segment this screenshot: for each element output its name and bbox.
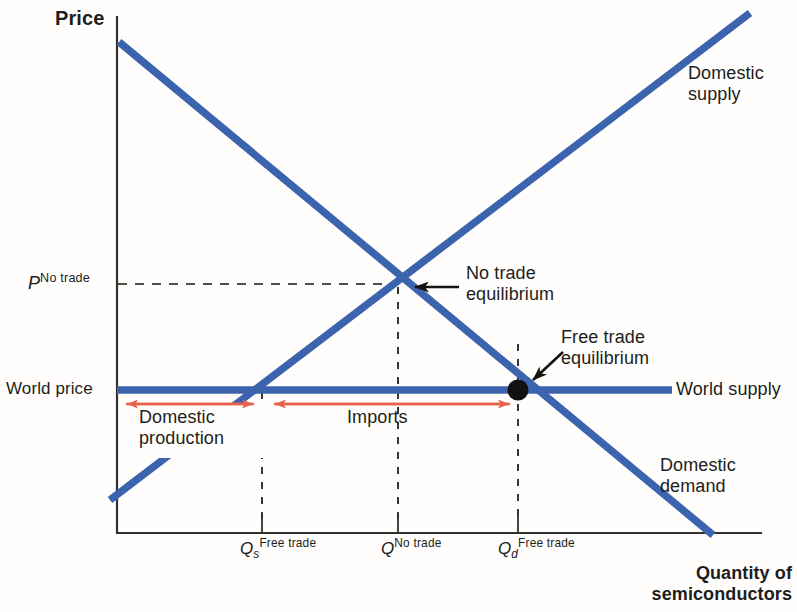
q-d-free-trade-tick-label: QdFree trade	[498, 537, 575, 562]
curves	[110, 13, 750, 535]
imports-label: Imports	[347, 407, 408, 428]
no-trade-equilibrium-label: No trade equilibrium	[466, 263, 606, 305]
domestic-supply-label: Domestic supply	[688, 63, 793, 105]
q-s-symbol: Q	[240, 539, 253, 558]
q-no-trade-superscript: No trade	[394, 536, 441, 550]
domestic-production-label: Domestic production	[139, 407, 264, 449]
x-axis-title: Quantity ofsemiconductors	[627, 563, 792, 605]
p-no-trade-superscript: No trade	[40, 271, 90, 285]
x-axis-ticks	[262, 514, 518, 533]
q-s-superscript: Free trade	[259, 536, 316, 550]
q-s-free-trade-tick-label: QsFree trade	[240, 537, 316, 562]
domestic-demand-label: Domestic demand	[660, 455, 780, 497]
q-d-superscript: Free trade	[518, 536, 575, 550]
diagram-canvas	[0, 0, 797, 612]
y-axis-title: Price	[55, 7, 104, 30]
world-supply-label: World supply	[676, 379, 781, 400]
free-trade-equilibrium-label: Free trade equilibrium	[561, 327, 706, 369]
world-price-axis-label: World price	[6, 379, 93, 399]
q-no-trade-symbol: Q	[381, 539, 394, 558]
p-no-trade-symbol: P	[28, 273, 40, 293]
economics-trade-diagram: Price Quantity ofsemiconductors PNo trad…	[0, 0, 797, 612]
q-d-symbol: Q	[498, 539, 511, 558]
p-no-trade-axis-label: PNo trade	[28, 271, 90, 294]
x-axis-title-line2: semiconductors	[652, 584, 792, 604]
x-axis-title-line1: Quantity of	[696, 563, 792, 583]
q-no-trade-tick-label: QNo trade	[381, 537, 442, 558]
domestic-demand-curve	[119, 42, 713, 535]
free-trade-equilibrium-callout-arrow	[533, 352, 563, 380]
free-trade-equilibrium-dot	[508, 380, 529, 401]
